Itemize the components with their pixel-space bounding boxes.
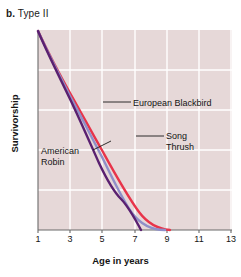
annotation-european-blackbird: European Blackbird [133,98,212,109]
x-tick-3: 3 [63,234,77,244]
x-tick-5: 5 [95,234,109,244]
x-tick-9: 9 [160,234,174,244]
x-axis-label: Age in years [0,255,241,266]
y-axis-label: Survivorship [9,84,20,164]
x-tick-11: 11 [192,234,206,244]
x-tick-7: 7 [128,234,142,244]
annotation-song-thrush: Song Thrush [166,131,194,152]
annotation-american-robin: American Robin [41,146,79,167]
x-tick-13: 13 [224,234,238,244]
x-tick-1: 1 [31,234,45,244]
figure-panel-type-ii: b. Type II [0,0,241,277]
